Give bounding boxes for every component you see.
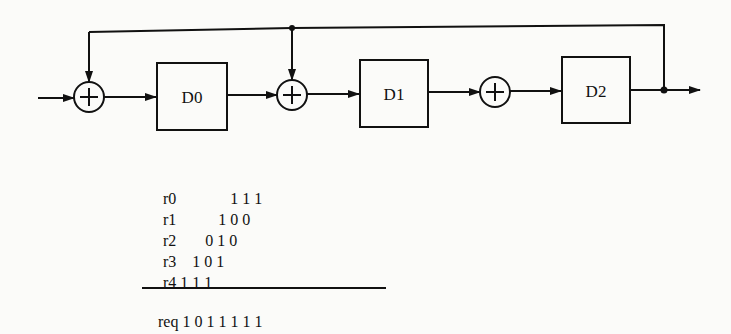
label-d1: D1 bbox=[384, 85, 405, 104]
table-row-result: req1 0 1 1 1 1 1 bbox=[142, 298, 262, 334]
lfsr-diagram: D0 D1 D2 bbox=[0, 0, 731, 334]
label-d0: D0 bbox=[182, 88, 203, 107]
label-d2: D2 bbox=[586, 82, 607, 101]
sum-rule bbox=[142, 287, 386, 289]
result-bits: 1 0 1 1 1 1 1 bbox=[182, 313, 262, 330]
junction-dot-feedback bbox=[289, 25, 295, 31]
adder-2 bbox=[480, 77, 510, 107]
adder-1 bbox=[277, 80, 307, 110]
result-label: req bbox=[158, 313, 178, 330]
junction-dot-output bbox=[661, 87, 668, 94]
adder-0 bbox=[74, 82, 104, 112]
